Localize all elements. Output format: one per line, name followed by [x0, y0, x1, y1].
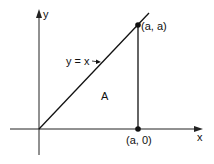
diagram: x y (a, a) (a, 0) y = x A [0, 0, 214, 164]
region-label: A [101, 90, 109, 102]
line-label: y = x [66, 55, 90, 67]
line-y-equals-x [39, 13, 149, 129]
point-a-0 [135, 126, 141, 132]
pointer-arrow-icon [92, 60, 101, 65]
point-a-0-label: (a, 0) [126, 134, 152, 146]
x-axis-label: x [197, 131, 203, 143]
y-axis-label: y [43, 8, 49, 20]
y-axis [36, 9, 42, 155]
point-a-a-label: (a, a) [141, 20, 167, 32]
point-a-a [135, 22, 141, 28]
